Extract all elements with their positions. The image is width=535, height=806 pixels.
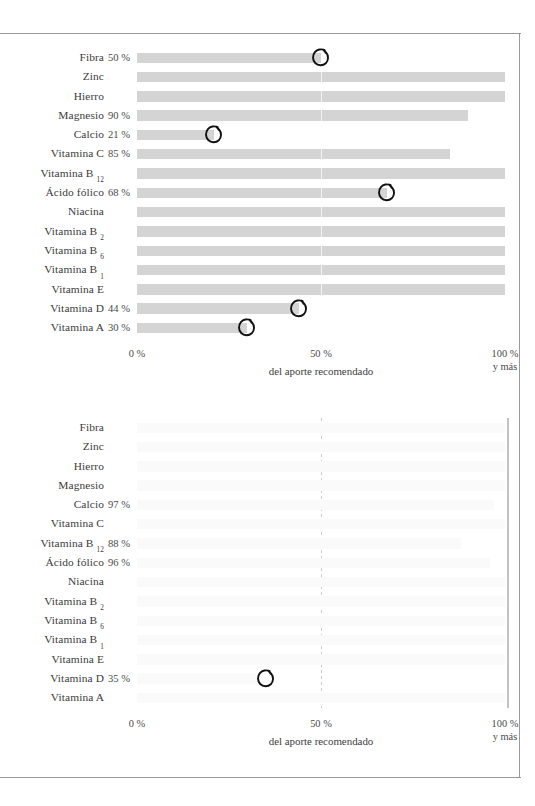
bar — [137, 635, 505, 645]
bar-track — [137, 323, 505, 333]
chart-row: Niacina — [0, 202, 535, 221]
chart-row: Vitamina B 6 — [0, 611, 535, 630]
axis-tick-100: 100 %y más — [465, 348, 535, 372]
value-label: 30 % — [108, 318, 136, 337]
bar — [137, 596, 505, 606]
chart-bottom: FibraZincHierroMagnesioCalcio97 %Vitamin… — [0, 418, 535, 768]
category-label: Vitamina D — [0, 299, 104, 318]
bar — [137, 616, 505, 626]
category-label: Vitamina C — [0, 144, 104, 163]
category-label: Vitamina B 1 — [0, 630, 104, 649]
bar — [137, 538, 461, 548]
midpoint-notch — [321, 188, 322, 198]
chart-top: Fibra50 %ZincHierroMagnesio90 %Calcio21 … — [0, 48, 535, 378]
value-label: 96 % — [108, 553, 136, 572]
category-label: Vitamina B 6 — [0, 611, 104, 630]
midpoint-notch — [321, 110, 322, 120]
axis-tick-100-label: 100 % — [465, 718, 535, 729]
bar-track — [137, 130, 505, 140]
category-label: Niacina — [0, 202, 104, 221]
bar-track — [137, 303, 505, 313]
bar — [137, 558, 490, 568]
bar — [137, 130, 214, 140]
axis-tick-0: 0 % — [97, 718, 177, 729]
midpoint-notch — [321, 91, 322, 101]
midpoint-notch — [321, 72, 322, 82]
chart-row: Vitamina E — [0, 280, 535, 299]
bar-track — [137, 693, 505, 703]
chart-row: Hierro — [0, 87, 535, 106]
chart-row: Vitamina A30 % — [0, 318, 535, 337]
value-label: 88 % — [108, 534, 136, 553]
midpoint-notch — [321, 207, 322, 217]
bar — [137, 149, 450, 159]
bar — [137, 303, 299, 313]
chart-bottom-rows: FibraZincHierroMagnesioCalcio97 %Vitamin… — [0, 418, 535, 707]
chart-row: Magnesio90 % — [0, 106, 535, 125]
chart-row: Vitamina D44 % — [0, 299, 535, 318]
chart-row: Vitamina C — [0, 514, 535, 533]
chart-row: Fibra50 % — [0, 48, 535, 67]
category-label: Vitamina B 12 — [0, 164, 104, 183]
category-label: Hierro — [0, 87, 104, 106]
chart-row: Vitamina B 12 — [0, 164, 535, 183]
chart-row: Magnesio — [0, 476, 535, 495]
category-label: Hierro — [0, 457, 104, 476]
bar — [137, 323, 247, 333]
chart-row: Vitamina B 2 — [0, 592, 535, 611]
category-label: Ácido fólico — [0, 183, 104, 202]
axis-tick-100-sublabel: y más — [465, 361, 535, 372]
category-label: Magnesio — [0, 106, 104, 125]
chart-top-rows: Fibra50 %ZincHierroMagnesio90 %Calcio21 … — [0, 48, 535, 337]
category-label: Vitamina E — [0, 280, 104, 299]
axis-tick-100-label: 100 % — [465, 348, 535, 359]
axis-tick-0-label: 0 % — [97, 348, 177, 359]
bar-track — [137, 616, 505, 626]
chart-row: Ácido fólico96 % — [0, 553, 535, 572]
chart-row: Calcio21 % — [0, 125, 535, 144]
value-label: 68 % — [108, 183, 136, 202]
chart-row: Vitamina E — [0, 650, 535, 669]
category-label: Vitamina B 2 — [0, 222, 104, 241]
midpoint-notch — [321, 149, 322, 159]
value-label: 85 % — [108, 144, 136, 163]
page-frame-bottom-rule — [0, 777, 521, 778]
midpoint-notch — [321, 226, 322, 236]
midpoint-notch — [321, 168, 322, 178]
category-label: Vitamina B 12 — [0, 534, 104, 553]
bar — [137, 577, 505, 587]
axis-tick-0-label: 0 % — [97, 718, 177, 729]
bar-track — [137, 423, 505, 433]
axis-tick-100-sublabel: y más — [465, 731, 535, 742]
bar — [137, 519, 505, 529]
category-label: Fibra — [0, 48, 104, 67]
chart-row: Hierro — [0, 457, 535, 476]
chart-row: Zinc — [0, 437, 535, 456]
category-label: Vitamina C — [0, 514, 104, 533]
value-label: 21 % — [108, 125, 136, 144]
axis-tick-100: 100 %y más — [465, 718, 535, 742]
chart-row: Ácido fólico68 % — [0, 183, 535, 202]
bar — [137, 423, 505, 433]
chart-row: Vitamina D35 % — [0, 669, 535, 688]
chart-row: Zinc — [0, 67, 535, 86]
bar — [137, 188, 387, 198]
category-label: Zinc — [0, 67, 104, 86]
bar-track — [137, 538, 505, 548]
category-label: Vitamina B 6 — [0, 241, 104, 260]
bar-track — [137, 635, 505, 645]
bar-track — [137, 519, 505, 529]
bar-track — [137, 53, 505, 63]
category-label: Vitamina A — [0, 318, 104, 337]
bar — [137, 442, 505, 452]
chart-row: Vitamina B 1 — [0, 260, 535, 279]
bar-track — [137, 461, 505, 471]
category-label: Vitamina B 2 — [0, 592, 104, 611]
value-label: 90 % — [108, 106, 136, 125]
bar — [137, 693, 505, 703]
bar — [137, 53, 321, 63]
value-label: 97 % — [108, 495, 136, 514]
bar-track — [137, 558, 505, 568]
chart-row: Vitamina B 1288 % — [0, 534, 535, 553]
chart-row: Fibra — [0, 418, 535, 437]
